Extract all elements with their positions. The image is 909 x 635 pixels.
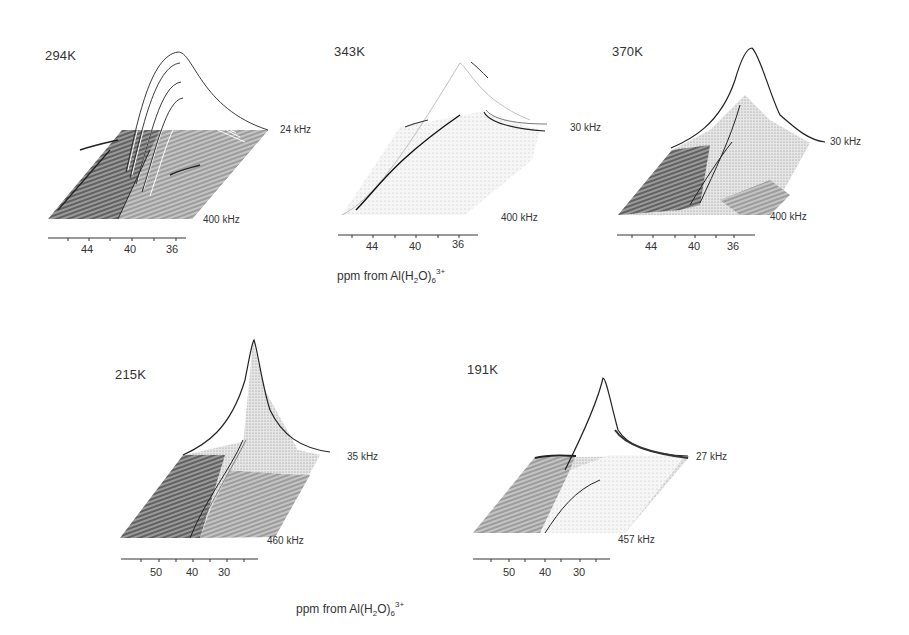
- freq-bottom-label-191k: 457 kHz: [618, 534, 655, 545]
- spectrum-294k: [48, 52, 268, 219]
- x-tick-label: 36: [166, 243, 178, 255]
- x-tick-label: 36: [452, 238, 464, 250]
- x-tick-label: 40: [688, 240, 700, 252]
- freq-top-label-191k: 27 kHz: [696, 451, 727, 462]
- temperature-label-343k: 343K: [334, 44, 365, 59]
- x-tick-label: 40: [539, 566, 551, 578]
- x-tick-label: 50: [503, 566, 515, 578]
- x-axis-label-top: ppm from Al(H2O)63+: [337, 267, 445, 285]
- spectrum-191k: [473, 378, 690, 533]
- freq-top-label-370k: 30 kHz: [830, 136, 861, 147]
- spectrum-343k: [342, 62, 547, 215]
- x-tick-label: 40: [124, 243, 136, 255]
- x-tick-label: 44: [645, 240, 657, 252]
- temperature-label-370k: 370K: [612, 44, 643, 59]
- freq-bottom-label-343k: 400 kHz: [501, 212, 538, 223]
- spectrum-215k: [120, 340, 330, 538]
- freq-top-label-215k: 35 kHz: [347, 451, 378, 462]
- x-tick-label: 36: [727, 240, 739, 252]
- freq-top-label-294k: 24 kHz: [280, 124, 311, 135]
- figure-graphics: [0, 0, 909, 635]
- spectrum-370k: [618, 48, 825, 215]
- x-tick-label: 44: [81, 243, 93, 255]
- freq-top-label-343k: 30 kHz: [570, 122, 601, 133]
- temperature-label-191k: 191K: [467, 362, 498, 377]
- x-axis-label-bottom: ppm from Al(H2O)63+: [296, 600, 404, 618]
- freq-bottom-label-215k: 460 kHz: [267, 535, 304, 546]
- freq-bottom-label-294k: 400 kHz: [203, 214, 240, 225]
- x-tick-label: 40: [186, 566, 198, 578]
- x-tick-label: 44: [366, 240, 378, 252]
- x-tick-label: 50: [150, 566, 162, 578]
- temperature-label-215k: 215K: [115, 367, 146, 382]
- temperature-label-294k: 294K: [45, 48, 76, 63]
- x-tick-label: 40: [409, 240, 421, 252]
- freq-bottom-label-370k: 400 kHz: [770, 211, 807, 222]
- x-tick-label: 30: [218, 566, 230, 578]
- x-tick-label: 30: [573, 566, 585, 578]
